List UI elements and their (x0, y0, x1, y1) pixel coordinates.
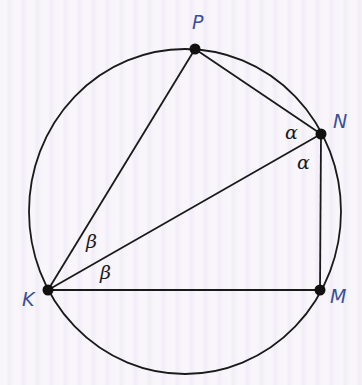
segment-kn-diagonal (48, 134, 321, 290)
segment-kp (48, 49, 195, 290)
label-n: N (333, 110, 347, 132)
point-n-dot (316, 129, 327, 140)
label-m: M (330, 285, 346, 307)
angle-alpha-upper: α (285, 121, 298, 143)
point-k-dot (43, 285, 54, 296)
angle-beta-upper: β (85, 230, 97, 252)
geometry-diagram: P N M K α α β β (0, 0, 362, 385)
segment-nm (320, 134, 321, 290)
angle-beta-lower: β (99, 261, 111, 283)
angle-alpha-lower: α (297, 151, 310, 173)
label-k: K (22, 288, 36, 310)
segment-pn (195, 49, 321, 134)
point-m-dot (315, 285, 326, 296)
point-p-dot (190, 44, 201, 55)
label-p: P (192, 11, 204, 33)
